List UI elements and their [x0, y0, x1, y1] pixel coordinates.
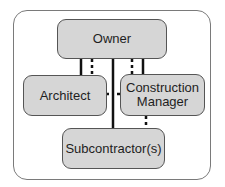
architect-label: Architect: [40, 89, 91, 103]
construction-manager-label-line2: Manager: [137, 95, 188, 109]
owner-node: Owner: [57, 19, 167, 59]
construction-manager-node: Construction Manager: [120, 74, 205, 116]
architect-node: Architect: [23, 75, 107, 116]
construction-manager-label-line1: Construction: [126, 81, 199, 95]
subcontractors-label: Subcontractor(s): [65, 142, 161, 156]
subcontractors-node: Subcontractor(s): [62, 128, 165, 169]
owner-label: Owner: [93, 32, 131, 46]
